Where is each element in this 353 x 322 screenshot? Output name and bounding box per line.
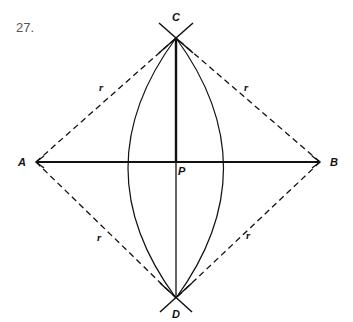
label-B: B — [330, 156, 338, 168]
line-B-C — [176, 38, 320, 162]
label-A: A — [17, 156, 26, 168]
radius-label-AD: r — [97, 231, 102, 243]
perpendicular-bisector-diagram: C D A B P r r r r — [0, 0, 353, 322]
radius-label-AC: r — [99, 81, 104, 93]
radius-label-BD: r — [246, 229, 251, 241]
label-C: C — [172, 11, 181, 23]
label-D: D — [172, 308, 180, 320]
label-P: P — [178, 165, 186, 177]
line-A-C — [36, 38, 176, 162]
line-A-D — [36, 162, 176, 298]
arc-left — [128, 38, 176, 298]
radius-label-BC: r — [244, 81, 249, 93]
